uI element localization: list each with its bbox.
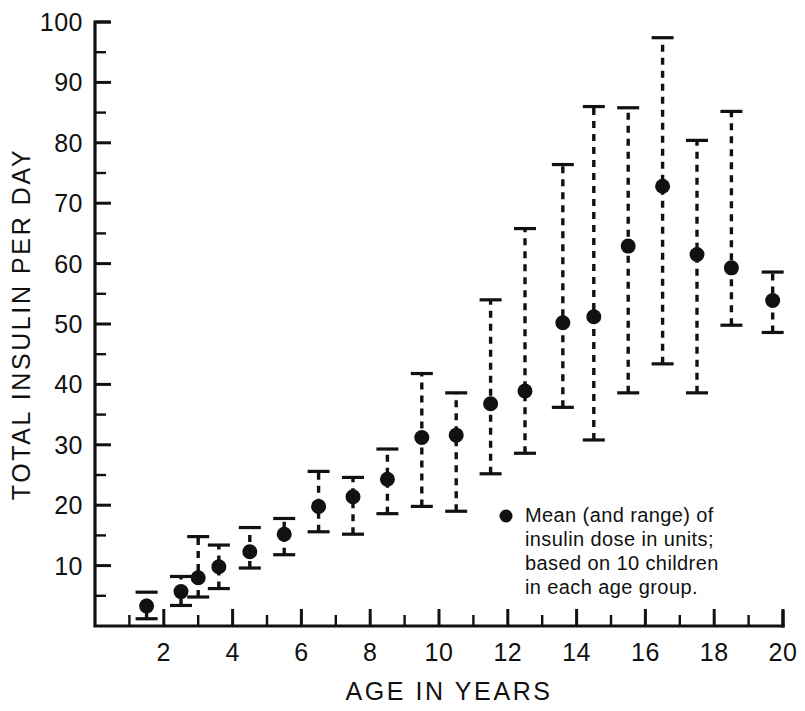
x-tick-label-18: 18: [700, 638, 729, 666]
mean-marker: [586, 309, 601, 324]
data-point: [480, 300, 502, 474]
y-tick-label-20: 20: [54, 491, 83, 519]
mean-marker: [346, 489, 361, 504]
x-tick-label-6: 6: [294, 638, 308, 666]
x-axis-title: AGE IN YEARS: [345, 677, 552, 705]
data-point: [686, 140, 708, 392]
mean-marker: [414, 430, 429, 445]
x-tick-label-10: 10: [425, 638, 454, 666]
x-tick-label-14: 14: [562, 638, 591, 666]
y-tick-label-70: 70: [54, 189, 83, 217]
mean-marker: [518, 384, 533, 399]
mean-marker: [621, 239, 636, 254]
x-tick-label-12: 12: [493, 638, 522, 666]
y-tick-label-60: 60: [54, 250, 83, 278]
data-point: [445, 393, 467, 511]
data-point: [308, 471, 330, 531]
mean-marker: [191, 570, 206, 585]
data-point: [552, 165, 574, 408]
x-tick-label-16: 16: [631, 638, 660, 666]
y-axis-title: TOTAL INSULIN PER DAY: [7, 148, 35, 500]
mean-marker: [555, 315, 570, 330]
insulin-vs-age-scatter-plot: 1020304050607080901002468101214161820AGE…: [0, 0, 805, 711]
data-point: [514, 229, 536, 454]
y-tick-label-90: 90: [54, 68, 83, 96]
data-point: [583, 107, 605, 440]
x-tick-label-8: 8: [363, 638, 377, 666]
mean-marker: [765, 293, 780, 308]
x-tick-label-20: 20: [769, 638, 798, 666]
axis-tick-labels: 1020304050607080901002468101214161820AGE…: [7, 8, 797, 705]
mean-marker: [655, 179, 670, 194]
mean-marker: [211, 559, 226, 574]
y-tick-label-40: 40: [54, 370, 83, 398]
data-point: [720, 111, 742, 325]
mean-marker: [311, 499, 326, 514]
data-point: [652, 38, 674, 364]
data-point: [342, 477, 364, 534]
data-point: [136, 592, 158, 619]
y-tick-label-80: 80: [54, 129, 83, 157]
y-tick-label-50: 50: [54, 310, 83, 338]
data-point: [187, 537, 209, 597]
y-tick-label-100: 100: [40, 8, 83, 36]
chart-figure: 1020304050607080901002468101214161820AGE…: [0, 0, 805, 711]
mean-marker: [380, 472, 395, 487]
y-tick-label-30: 30: [54, 431, 83, 459]
y-tick-label-10: 10: [54, 552, 83, 580]
data-point: [208, 545, 230, 588]
data-point: [762, 272, 784, 332]
mean-marker: [690, 247, 705, 262]
mean-marker: [242, 544, 257, 559]
mean-marker: [724, 260, 739, 275]
data-point: [239, 528, 261, 568]
data-point: [376, 449, 398, 514]
x-tick-label-4: 4: [225, 638, 239, 666]
mean-marker: [277, 527, 292, 542]
data-point: [170, 576, 192, 605]
mean-marker: [483, 396, 498, 411]
mean-marker: [139, 599, 154, 614]
data-point: [411, 374, 433, 507]
data-series-errorbars: [136, 38, 784, 619]
mean-marker: [174, 584, 189, 599]
mean-marker: [449, 428, 464, 443]
data-point: [273, 518, 295, 554]
x-tick-label-2: 2: [157, 638, 171, 666]
series-0: [136, 38, 784, 619]
data-point: [617, 108, 639, 393]
